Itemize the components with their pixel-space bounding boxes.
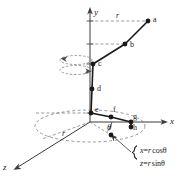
z-axis-arrowhead (14, 164, 22, 170)
y-axis-label: y (94, 8, 98, 17)
point-label-c: c (98, 60, 102, 68)
equation-1-rhs-var: r (148, 146, 151, 155)
point-label-b: b (130, 41, 134, 49)
x-axis-label: x (170, 117, 174, 126)
data-point-f (109, 115, 114, 120)
point-label-a: a (153, 16, 157, 24)
radius-label-top: r (116, 12, 119, 20)
data-point-e (89, 111, 94, 116)
point-label-e: e (95, 106, 99, 114)
data-point-b (123, 42, 128, 47)
data-point-a (146, 19, 151, 24)
z-axis-label: z (3, 163, 7, 172)
data-point-p (109, 133, 114, 138)
equation-brace-lower (132, 146, 137, 159)
equation-2-rhs-var: r (148, 159, 151, 168)
figure-canvas: y x z r r θ abcdefgh x=rcosθ z=rsinθ (0, 0, 184, 179)
equation-2-rhs-fn: sinθ (152, 159, 165, 168)
point-label-f: f (113, 106, 116, 114)
point-label-g: g (133, 113, 137, 121)
radius-label-floor: r (62, 130, 65, 138)
theta-angle-label: θ (107, 123, 111, 132)
point-label-h: h (133, 124, 137, 132)
point-label-d: d (97, 85, 101, 93)
equation-1-rhs-fn: cosθ (152, 146, 167, 155)
z-axis-line (18, 122, 90, 167)
data-point-d (90, 87, 95, 92)
helix-path (91, 21, 148, 127)
equation-line-1: x=rcosθ (140, 147, 167, 155)
data-point-c (91, 62, 96, 67)
equation-line-2: z=rsinθ (140, 160, 165, 168)
